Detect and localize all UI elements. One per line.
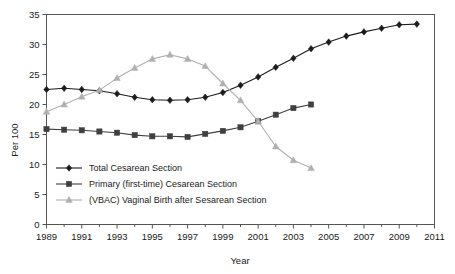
data-point-marker: [132, 94, 137, 101]
data-point-marker: [97, 129, 102, 134]
data-point-marker: [326, 39, 331, 46]
data-point-marker: [220, 128, 225, 133]
series-line: [47, 55, 312, 168]
x-tick-label: 1989: [36, 231, 57, 242]
x-tick-label: 1991: [71, 231, 92, 242]
y-tick-label: 35: [29, 9, 40, 20]
data-point-marker: [150, 134, 155, 139]
data-point-marker: [361, 29, 366, 36]
data-point-marker: [114, 75, 121, 81]
chart-container: 05101520253035 1989199119931995199719992…: [0, 0, 455, 274]
data-point-marker: [291, 55, 296, 62]
x-tick-label: 2001: [248, 231, 269, 242]
y-axis-title: Per 100: [9, 123, 20, 156]
data-point-marker: [397, 21, 402, 28]
y-axis-ticks: 05101520253035: [29, 9, 47, 230]
x-tick-label: 2007: [353, 231, 374, 242]
data-point-marker: [308, 45, 313, 52]
data-point-marker: [379, 25, 384, 32]
data-point-marker: [66, 165, 71, 172]
legend-item: Primary (first-time) Cesarean Section: [56, 179, 237, 189]
series-line: [47, 105, 312, 137]
x-axis-title: Year: [230, 255, 249, 266]
data-point-marker: [44, 126, 49, 131]
data-point-marker: [61, 85, 66, 92]
data-point-marker: [44, 86, 49, 93]
data-point-marker: [167, 97, 172, 104]
data-point-marker: [255, 74, 260, 81]
data-point-marker: [96, 87, 103, 93]
x-tick-label: 1997: [177, 231, 198, 242]
legend-item: Total Cesarean Section: [56, 163, 182, 173]
data-point-marker: [114, 90, 119, 97]
data-point-marker: [344, 33, 349, 40]
legend-label: Primary (first-time) Cesarean Section: [89, 179, 237, 189]
data-point-marker: [238, 82, 243, 89]
data-point-marker: [220, 89, 225, 96]
data-point-marker: [132, 132, 137, 137]
data-point-marker: [79, 86, 84, 93]
x-tick-label: 1995: [142, 231, 163, 242]
data-point-marker: [79, 128, 84, 133]
y-tick-label: 25: [29, 69, 40, 80]
data-point-marker: [203, 131, 208, 136]
data-series: [44, 102, 314, 140]
y-tick-label: 5: [34, 189, 39, 200]
data-point-marker: [167, 51, 174, 57]
data-point-marker: [238, 125, 243, 130]
data-point-marker: [185, 96, 190, 103]
data-series: [43, 51, 314, 170]
data-point-marker: [273, 64, 278, 71]
chart-legend: Total Cesarean SectionPrimary (first-tim…: [56, 163, 266, 205]
x-tick-label: 2011: [424, 231, 444, 242]
data-point-marker: [66, 181, 71, 186]
plot-frame: [47, 15, 435, 225]
y-tick-label: 20: [29, 99, 40, 110]
x-axis-ticks: 1989199119931995199719992001200320052007…: [36, 225, 445, 242]
y-tick-label: 0: [34, 219, 39, 230]
data-point-marker: [290, 157, 297, 163]
x-tick-label: 2009: [389, 231, 410, 242]
data-point-marker: [114, 130, 119, 135]
legend-item: (VBAC) Vaginal Birth after Sesarean Sect…: [56, 195, 266, 205]
y-tick-label: 10: [29, 159, 40, 170]
data-point-marker: [185, 134, 190, 139]
data-point-marker: [291, 105, 296, 110]
legend-label: (VBAC) Vaginal Birth after Sesarean Sect…: [89, 195, 266, 205]
data-point-marker: [203, 94, 208, 101]
data-point-marker: [131, 64, 138, 70]
data-point-marker: [308, 102, 313, 107]
legend-label: Total Cesarean Section: [89, 163, 182, 173]
data-point-marker: [167, 134, 172, 139]
series-layer: [43, 21, 419, 171]
data-point-marker: [150, 96, 155, 103]
x-tick-label: 2005: [318, 231, 339, 242]
x-tick-label: 2003: [283, 231, 304, 242]
x-tick-label: 1999: [212, 231, 233, 242]
x-tick-label: 1993: [106, 231, 127, 242]
data-point-marker: [61, 127, 66, 132]
data-point-marker: [273, 112, 278, 117]
data-point-marker: [414, 21, 419, 28]
y-tick-label: 15: [29, 129, 40, 140]
y-tick-label: 30: [29, 39, 40, 50]
line-chart: 05101520253035 1989199119931995199719992…: [0, 0, 455, 274]
